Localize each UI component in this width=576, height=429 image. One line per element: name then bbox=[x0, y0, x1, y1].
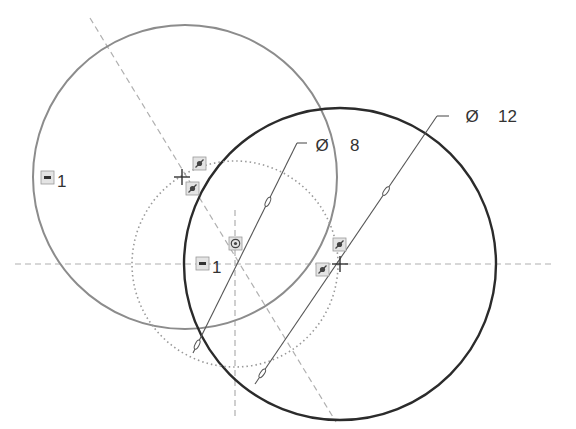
centerline-diagonal[interactable] bbox=[90, 18, 336, 422]
sketch-canvas[interactable]: Ø8Ø12 11 bbox=[0, 0, 576, 429]
dimension-arrow-icon bbox=[264, 196, 272, 207]
center-marks bbox=[174, 169, 348, 272]
tangent-badge-3-icon[interactable] bbox=[333, 238, 346, 251]
centerlines bbox=[15, 18, 552, 422]
dimension-arrow-icon bbox=[193, 339, 201, 350]
coincident-badge-icon[interactable] bbox=[229, 237, 242, 250]
tangent-badge-2-icon[interactable] bbox=[186, 182, 199, 195]
circles bbox=[33, 25, 496, 420]
dimension-arrow-icon bbox=[382, 186, 391, 197]
diameter-8-value[interactable]: 8 bbox=[350, 136, 359, 155]
relation-badges bbox=[186, 157, 346, 276]
tangent-badge-1-icon[interactable] bbox=[193, 157, 206, 170]
equal-label-left[interactable]: 1 bbox=[41, 171, 66, 191]
equal-label-text: 1 bbox=[212, 258, 221, 277]
dimension-arrow-icon bbox=[258, 368, 267, 379]
equal-label-center[interactable]: 1 bbox=[196, 257, 221, 277]
diameter-symbol-icon: Ø bbox=[465, 107, 478, 126]
diameter-12-value[interactable]: 12 bbox=[498, 107, 517, 126]
tangent-badge-4-icon[interactable] bbox=[316, 263, 329, 276]
diameter-symbol-icon: Ø bbox=[315, 136, 328, 155]
equal-label-text: 1 bbox=[57, 172, 66, 191]
center-mark-dark-icon[interactable] bbox=[332, 256, 348, 272]
